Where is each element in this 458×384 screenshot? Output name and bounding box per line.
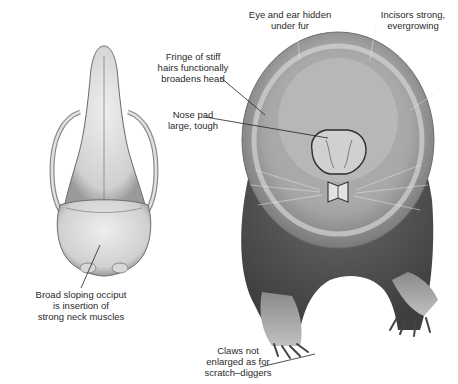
label-claws: Claws not enlarged as for scratch–digger… bbox=[196, 345, 280, 378]
label-eye-ear: Eye and ear hidden under fur bbox=[240, 9, 340, 31]
skull-drawing bbox=[52, 46, 156, 276]
label-incisors: Incisors strong, evergrowing bbox=[368, 9, 458, 31]
mole-drawing bbox=[241, 25, 440, 358]
label-nose-pad: Nose pad large, tough bbox=[158, 109, 228, 131]
label-occiput: Broad sloping occiput is insertion of st… bbox=[6, 289, 156, 322]
label-fringe: Fringe of stiff hairs functionally broad… bbox=[148, 51, 238, 84]
illustration-canvas: Eye and ear hidden under fur Incisors st… bbox=[0, 0, 458, 384]
